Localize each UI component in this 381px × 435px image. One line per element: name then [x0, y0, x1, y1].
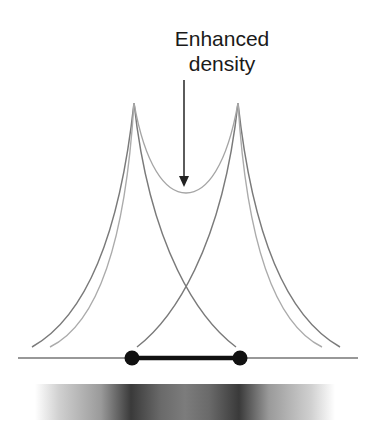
left-peak-curve	[32, 103, 236, 347]
left-sum-tail	[50, 103, 134, 347]
right-sum-tail	[238, 103, 322, 347]
arrow-icon	[179, 80, 189, 187]
density-band	[35, 384, 335, 420]
right-point	[233, 351, 248, 366]
density-diagram	[0, 0, 381, 435]
left-point	[125, 351, 140, 366]
right-peak-curve	[137, 103, 340, 347]
